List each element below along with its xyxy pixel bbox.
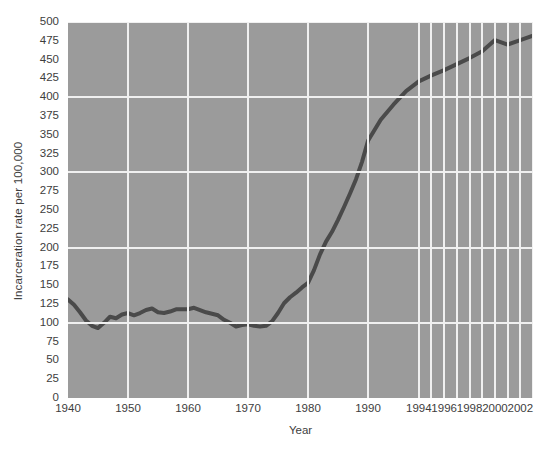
vertical-gridline [127, 22, 129, 398]
x-tick-label: 1980 [295, 403, 321, 415]
vertical-gridline [532, 22, 533, 398]
plot-area [68, 22, 533, 398]
vertical-gridline [367, 22, 369, 398]
y-tick-label: 50 [46, 355, 59, 367]
y-tick-label: 25 [46, 373, 59, 385]
x-tick-label: 1998 [457, 403, 483, 415]
vertical-gridline [507, 22, 509, 398]
vertical-gridline [418, 22, 420, 398]
vertical-gridline [519, 22, 521, 398]
vertical-gridline [456, 22, 458, 398]
y-tick-label: 475 [40, 35, 59, 47]
horizontal-gridline [68, 322, 533, 324]
line-series [68, 22, 533, 398]
vertical-gridline [187, 22, 189, 398]
clipped-top-caption [0, 0, 551, 2]
y-tick-label: 175 [40, 261, 59, 273]
x-tick-label: 2002 [508, 403, 534, 415]
x-tick-label: 1996 [431, 403, 457, 415]
vertical-gridline [443, 22, 445, 398]
x-tick-label: 1970 [235, 403, 261, 415]
x-tick-label: 2000 [482, 403, 508, 415]
y-tick-label: 150 [40, 279, 59, 291]
y-tick-label: 275 [40, 185, 59, 197]
y-tick-label: 500 [40, 16, 59, 28]
horizontal-gridline [68, 22, 533, 23]
vertical-gridline [430, 22, 432, 398]
x-tick-label: 1950 [115, 403, 141, 415]
x-tick-label: 1994 [406, 403, 432, 415]
y-tick-label: 375 [40, 110, 59, 122]
vertical-gridline [494, 22, 496, 398]
y-tick-label: 325 [40, 148, 59, 160]
x-tick-label: 1990 [355, 403, 381, 415]
y-tick-label: 450 [40, 54, 59, 66]
y-tick-label: 300 [40, 167, 59, 179]
vertical-gridline [247, 22, 249, 398]
y-tick-label: 425 [40, 73, 59, 85]
y-tick-label: 125 [40, 298, 59, 310]
x-tick-label: 1960 [175, 403, 201, 415]
x-tick-label: 1940 [55, 403, 81, 415]
x-axis-tick-labels: 1940195019601970198019901994199619982000… [0, 398, 551, 422]
vertical-gridline [307, 22, 309, 398]
horizontal-gridline [68, 247, 533, 249]
y-axis-tick-labels: 0255075100125150175200225250275300325350… [0, 0, 64, 452]
vertical-gridline [469, 22, 471, 398]
y-tick-label: 225 [40, 223, 59, 235]
vertical-gridline [481, 22, 483, 398]
y-tick-label: 100 [40, 317, 59, 329]
y-tick-label: 350 [40, 129, 59, 141]
y-tick-label: 200 [40, 242, 59, 254]
x-axis-title: Year [68, 424, 533, 436]
y-tick-label: 400 [40, 91, 59, 103]
horizontal-gridline [68, 171, 533, 173]
incarceration-rate-line [68, 36, 533, 329]
horizontal-gridline [68, 96, 533, 98]
chart-figure: Incarceration rate per 100,000 025507510… [0, 0, 551, 452]
y-tick-label: 250 [40, 204, 59, 216]
y-tick-label: 75 [46, 336, 59, 348]
